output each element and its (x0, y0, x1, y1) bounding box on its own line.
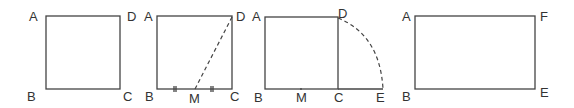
label-c: C (123, 89, 132, 104)
label-c: C (334, 90, 343, 105)
label-b: B (402, 89, 411, 104)
label-a: A (29, 9, 38, 24)
label-b: B (145, 89, 154, 104)
dashed-segment-md (195, 17, 232, 89)
figure-1-square: A D B C (27, 9, 136, 104)
label-a: A (402, 9, 411, 24)
label-d: D (127, 9, 136, 24)
label-c: C (230, 89, 239, 104)
square-abcd (157, 16, 232, 89)
label-m: M (296, 90, 307, 105)
label-d: D (236, 9, 245, 24)
square-abcd (265, 17, 338, 89)
golden-rectangle-construction-diagram: A D B C A D B M C A D B M C E A F B E (0, 0, 574, 108)
rectangle-abef (415, 16, 535, 89)
label-e: E (540, 85, 549, 100)
dashed-arc-de (338, 18, 383, 89)
label-b: B (27, 89, 36, 104)
label-f: F (540, 9, 548, 24)
label-m: M (189, 91, 200, 106)
square-abcd (46, 16, 120, 89)
figure-4-rectangle: A F B E (402, 9, 549, 104)
figure-2-midpoint: A D B M C (144, 9, 245, 106)
label-b: B (254, 90, 263, 105)
label-a: A (252, 9, 261, 24)
figure-3-arc: A D B M C E (252, 6, 385, 105)
label-d: D (338, 6, 347, 21)
label-e: E (376, 90, 385, 105)
label-a: A (144, 9, 153, 24)
